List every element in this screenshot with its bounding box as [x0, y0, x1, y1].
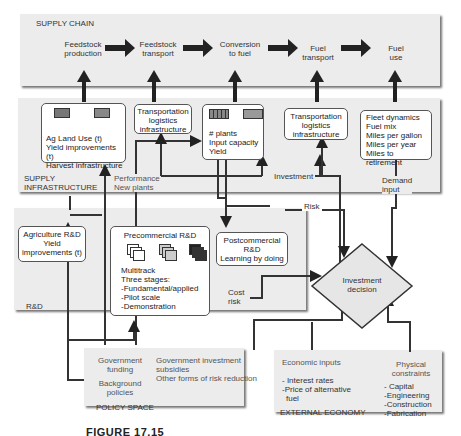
- external-economy-title: EXTERNAL ECONOMY: [280, 408, 366, 417]
- chain-stage-fuel-use: Fuel use: [378, 44, 414, 62]
- policy-space-title: POLICY SPACE: [96, 403, 154, 412]
- stage-line: Fuel: [298, 44, 338, 53]
- box-line: Harvest infrastructure: [46, 161, 125, 170]
- stage-line: to fuel: [213, 49, 267, 58]
- box-line: Learning by doing: [217, 254, 287, 263]
- conversion-infrastructure-box: # plants Input capacity Yield: [202, 104, 264, 160]
- label-line: risk: [228, 297, 244, 306]
- box-line: Yield: [19, 239, 85, 248]
- list-item: fuel: [282, 394, 351, 403]
- box-line: Transportation: [285, 112, 347, 121]
- box-line: logistics: [135, 116, 191, 125]
- stock-icon: [54, 108, 70, 118]
- list-item: - Interest rates: [282, 376, 351, 385]
- label-line: Performance: [114, 174, 160, 183]
- label-line: input: [382, 185, 412, 194]
- list-item: -Engineering: [384, 391, 432, 400]
- chain-stage-conversion: Conversion to fuel: [213, 40, 267, 58]
- box-line: Miles per year: [366, 140, 431, 149]
- box-line: Input capacity: [209, 138, 263, 147]
- label-line: Physical: [386, 360, 436, 369]
- label-line: constraints: [386, 369, 436, 378]
- transport-infrastructure-box-1: Transportation logistics infrastructure: [134, 104, 192, 134]
- stage-line: Conversion: [213, 40, 267, 49]
- box-line: Three stages:: [121, 275, 209, 284]
- economic-inputs-list: - Interest rates -Price of alternative f…: [282, 376, 351, 403]
- title-line: SUPPLY: [24, 174, 97, 183]
- ag-infrastructure-box: Ag Land Use (t) Yield improvements (t) H…: [41, 103, 126, 163]
- physical-constraints-title: Physical constraints: [386, 360, 436, 378]
- label-line: New plants: [114, 183, 160, 192]
- label-line: Investment: [332, 276, 392, 285]
- background-policies-label: Background policies: [92, 379, 148, 397]
- list-item: -Construction: [384, 400, 432, 409]
- box-line: Yield improvements (t): [46, 143, 125, 161]
- postcommercial-rnd-box: Postcommercial R&D Learning by doing: [216, 232, 288, 266]
- stage-line: transport: [298, 53, 338, 62]
- chain-stage-fuel-transport: Fuel transport: [298, 44, 338, 62]
- stage-line: production: [58, 49, 108, 58]
- stage-line: Feedstock: [58, 40, 108, 49]
- box-line: Agriculture R&D: [19, 230, 85, 239]
- stage-line: Fuel: [378, 44, 414, 53]
- supply-infrastructure-title: SUPPLY INFRASTRUCTURE: [24, 174, 97, 192]
- list-item: -Price of alternative: [282, 385, 351, 394]
- economic-inputs-title: Economic inputs: [282, 358, 341, 367]
- box-line: Fleet dynamics: [366, 113, 431, 122]
- box-line: # plants: [209, 129, 263, 138]
- box-line: improvements (t): [19, 248, 85, 257]
- box-line: Transportation: [135, 107, 191, 116]
- physical-constraints-list: - Capital -Engineering -Construction -Fa…: [384, 382, 432, 418]
- title-line: INFRASTRUCTURE: [24, 183, 97, 192]
- label-line: Government: [92, 356, 148, 365]
- risk-label: Risk: [302, 202, 322, 211]
- box-line: logistics: [285, 121, 347, 130]
- precommercial-rnd-box: Precommercial R&D Multitrack Three stage…: [110, 226, 210, 316]
- investment-label: Investment: [272, 172, 315, 181]
- box-line: Miles per gallon: [366, 131, 431, 140]
- box-line: infrastructure: [285, 130, 347, 139]
- investment-decision-label: Investment decision: [332, 276, 392, 294]
- box-line: R&D: [217, 245, 287, 254]
- box-line: -Fundamental/applied: [121, 284, 209, 293]
- list-item: - Capital: [384, 382, 432, 391]
- performance-label: Performance New plants: [114, 174, 160, 192]
- stage-line: use: [378, 53, 414, 62]
- box-line: Miles to retirement: [366, 149, 431, 167]
- stock-icon: [94, 108, 110, 118]
- label-line: Cost: [228, 288, 244, 297]
- cost-risk-label: Cost risk: [228, 288, 244, 306]
- label-line: Demand: [382, 176, 412, 185]
- box-line: Postcommercial: [217, 236, 287, 245]
- agriculture-rnd-box: Agriculture R&D Yield improvements (t): [18, 226, 86, 262]
- box-line: -Demonstration: [121, 302, 209, 311]
- demand-input-label: Demand input: [382, 176, 412, 194]
- fuel-use-box: Fleet dynamics Fuel mix Miles per gallon…: [360, 110, 432, 160]
- label-line: subsidies: [156, 365, 257, 374]
- box-line: Yield: [209, 147, 263, 156]
- label-line: Other forms of risk reduction: [156, 374, 257, 383]
- supply-chain-title: SUPPLY CHAIN: [36, 19, 94, 28]
- transport-infrastructure-box-2: Transportation logistics infrastructure: [284, 108, 348, 140]
- government-investment-label: Government investment subsidies Other fo…: [156, 356, 257, 383]
- stage-stacks-icon: [121, 240, 209, 266]
- rnd-title: R&D: [26, 302, 43, 311]
- capacity-icon: [243, 109, 263, 119]
- stage-line: transport: [133, 49, 183, 58]
- government-funding-label: Government funding: [92, 356, 148, 374]
- box-line: Fuel mix: [366, 122, 431, 131]
- label-line: Government investment: [156, 356, 257, 365]
- label-line: funding: [92, 365, 148, 374]
- box-line: -Pilot scale: [121, 293, 209, 302]
- label-line: Background: [92, 379, 148, 388]
- chain-stage-feedstock-production: Feedstock production: [58, 40, 108, 58]
- box-line: Ag Land Use (t): [46, 134, 125, 143]
- box-title: Precommercial R&D: [111, 231, 209, 240]
- box-line: infrastructure: [135, 125, 191, 134]
- figure-caption: FIGURE 17.15: [86, 426, 164, 436]
- plants-icon: [209, 109, 229, 119]
- stage-line: Feedstock: [133, 40, 183, 49]
- label-line: decision: [332, 285, 392, 294]
- list-item: -Fabrication: [384, 409, 432, 418]
- chain-stage-feedstock-transport: Feedstock transport: [133, 40, 183, 58]
